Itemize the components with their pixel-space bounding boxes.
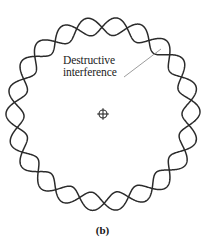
annotation-label: Destructive interference	[63, 54, 133, 79]
figure-caption: (b)	[0, 224, 205, 236]
annotation-label-line2: interference	[63, 66, 133, 78]
standing-wave-diagram	[0, 0, 205, 243]
physics-figure: Destructive interference (b)	[0, 0, 205, 243]
nucleus-crosshair-icon	[97, 108, 109, 120]
annotation-label-line1: Destructive	[63, 54, 133, 66]
